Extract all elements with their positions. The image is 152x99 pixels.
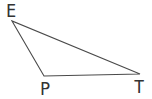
triangle-diagram: E P T (0, 0, 152, 99)
vertex-label-P: P (40, 79, 50, 99)
vertex-label-E: E (6, 1, 16, 21)
diagram-background (0, 0, 152, 99)
triangle-svg: E P T (0, 0, 152, 99)
vertex-label-T: T (134, 77, 144, 97)
